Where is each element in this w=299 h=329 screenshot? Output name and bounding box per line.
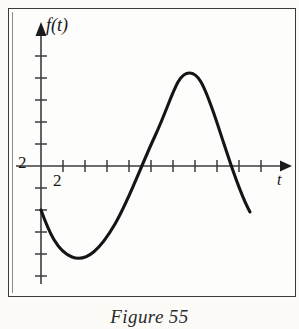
y-axis-arrowhead [36,22,47,36]
y-axis-tick-label-2: 2 [18,154,27,171]
x-axis-name-label: t [277,172,281,188]
y-axis-name-label: f(t) [46,16,68,34]
graph-plot [8,8,296,297]
figure-caption: Figure 55 [0,306,299,328]
figure-page: 2 2 f(t) t Figure 55 [0,0,299,329]
x-axis-tick-label-2: 2 [53,172,62,189]
x-axis-arrowhead [280,161,292,172]
